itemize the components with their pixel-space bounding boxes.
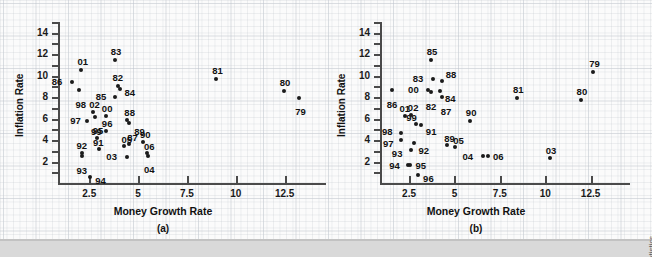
data-point-label-04: 04: [144, 165, 155, 175]
x-tick-label: 7.5: [480, 189, 520, 199]
y-tick-label: 12: [348, 49, 370, 59]
data-point-label-93: 93: [392, 149, 403, 159]
data-point-label-90: 90: [140, 130, 151, 140]
data-point-label-90: 90: [466, 108, 477, 118]
data-point-83: [113, 58, 117, 62]
data-point-79: [591, 70, 595, 74]
data-point-label-84: 84: [125, 88, 136, 98]
data-point-label-98: 98: [382, 127, 393, 137]
y-tick-minor: [374, 65, 381, 67]
x-tick-label: 10: [216, 189, 256, 199]
data-point-label-92: 92: [76, 141, 87, 151]
y-tick-minor: [374, 43, 381, 45]
data-point-90: [468, 119, 472, 123]
y-tick-minor: [52, 54, 59, 56]
y-tick-minor: [52, 86, 59, 88]
data-point-91: [419, 123, 423, 127]
y-tick-minor: [374, 54, 381, 56]
y-tick-label: 2: [26, 157, 48, 167]
data-point-97: [399, 138, 403, 142]
data-point-label-81: 81: [513, 85, 524, 95]
data-point-97: [85, 119, 89, 123]
x-tick-label: 2.5: [389, 189, 429, 199]
data-point-label-01: 01: [77, 57, 88, 67]
data-point-label-86: 86: [52, 77, 63, 87]
data-point-label-94: 94: [95, 176, 106, 186]
y-tick-minor: [52, 151, 59, 153]
data-point-95: [408, 163, 412, 167]
x-tick-label: 5: [118, 189, 158, 199]
source-note: SOURCE: Federal Reserve System and Burea…: [637, 6, 651, 236]
plot-area-a: 24681012142.557.51012.5Inflation RateMon…: [0, 0, 326, 239]
data-point-96: [416, 173, 420, 177]
data-point-06: [486, 154, 490, 158]
y-tick-minor: [374, 108, 381, 110]
y-tick-label: 4: [348, 135, 370, 145]
data-point-label-87: 87: [441, 107, 452, 117]
data-point-83: [431, 77, 435, 81]
y-tick-minor: [374, 140, 381, 142]
x-tick: [236, 176, 238, 183]
x-tick: [500, 176, 502, 183]
data-point-label-06: 06: [144, 142, 155, 152]
x-axis-title-a: Money Growth Rate: [0, 205, 326, 217]
y-tick-minor: [52, 140, 59, 142]
x-axis-line-b: [380, 183, 630, 185]
y-tick-minor: [52, 33, 59, 35]
data-point-label-03: 03: [106, 152, 117, 162]
y-tick-minor: [374, 151, 381, 153]
y-tick-minor: [374, 97, 381, 99]
y-axis-title-a: Inflation Rate: [14, 73, 25, 136]
data-point-label-96: 96: [102, 119, 113, 129]
y-tick-minor: [374, 86, 381, 88]
data-point-label-97: 97: [383, 139, 394, 149]
y-tick-minor: [52, 119, 59, 121]
x-tick: [187, 176, 189, 183]
data-point-label-97: 97: [70, 116, 81, 126]
y-tick-minor: [52, 172, 59, 174]
y-tick-minor: [374, 119, 381, 121]
data-point-label-80: 80: [577, 87, 588, 97]
y-tick-minor: [52, 129, 59, 131]
data-point-01: [403, 114, 407, 118]
data-point-03: [125, 155, 129, 159]
data-point-02: [91, 110, 95, 114]
data-point-04: [481, 154, 485, 158]
data-point-label-05: 05: [121, 135, 132, 145]
y-tick-label: 10: [348, 71, 370, 81]
data-point-label-80: 80: [280, 78, 291, 88]
chart-panel-b: 24681012142.557.51012.5Inflation RateMon…: [326, 0, 626, 239]
data-point-label-94: 94: [389, 161, 400, 171]
data-point-label-84: 84: [445, 94, 456, 104]
data-point-label-98: 98: [75, 100, 86, 110]
y-tick-minor: [52, 97, 59, 99]
y-tick-label: 12: [26, 49, 48, 59]
x-tick-label: 10: [525, 189, 565, 199]
data-point-94: [88, 175, 92, 179]
data-point-00: [104, 114, 108, 118]
data-point-79: [297, 96, 301, 100]
y-tick-minor: [374, 33, 381, 35]
data-point-86: [390, 88, 394, 92]
data-point-84: [438, 89, 442, 93]
x-axis-title-b: Money Growth Rate: [326, 205, 626, 217]
data-point-label-88: 88: [446, 70, 457, 80]
data-point-label-88: 88: [124, 108, 135, 118]
data-point-93: [409, 148, 413, 152]
data-point-label-02: 02: [89, 100, 100, 110]
y-tick-minor: [52, 22, 59, 24]
y-tick-minor: [52, 162, 59, 164]
bottom-band: [0, 239, 652, 257]
data-point-87: [440, 95, 444, 99]
data-point-label-04: 04: [462, 152, 473, 162]
data-point-84: [118, 87, 122, 91]
data-point-80: [579, 98, 583, 102]
x-tick-label: 7.5: [167, 189, 207, 199]
data-point-88: [440, 79, 444, 83]
data-point-label-00: 00: [102, 104, 113, 114]
x-tick: [545, 176, 547, 183]
data-point-label-83: 83: [111, 47, 122, 57]
y-tick-minor: [374, 129, 381, 131]
x-tick: [454, 176, 456, 183]
panel-caption-b: (b): [326, 223, 626, 234]
